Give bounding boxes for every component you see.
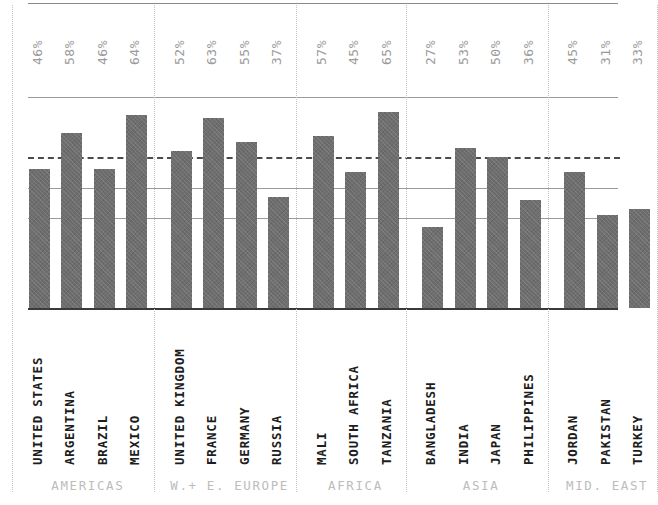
category-label: JAPAN bbox=[488, 315, 503, 465]
category-label: RUSSIA bbox=[269, 315, 284, 465]
category-label: INDIA bbox=[456, 315, 471, 465]
bar bbox=[61, 133, 82, 308]
value-label: 37% bbox=[269, 5, 284, 65]
category-label-band: UNITED STATESARGENTINABRAZILMEXICOUNITED… bbox=[0, 315, 628, 465]
bar bbox=[268, 197, 289, 308]
value-label: 33% bbox=[630, 5, 645, 65]
group-label-band: AMERICASW.+ E. EUROPEAFRICAASIAMID. EAST bbox=[0, 478, 628, 502]
category-label: TANZANIA bbox=[379, 315, 394, 465]
group-label: AFRICA bbox=[328, 478, 383, 493]
bar bbox=[564, 172, 585, 308]
category-label: PHILIPPINES bbox=[521, 315, 536, 465]
group-label: W.+ E. EUROPE bbox=[170, 478, 289, 493]
value-label: 36% bbox=[521, 5, 536, 65]
value-label: 64% bbox=[127, 5, 142, 65]
bar bbox=[597, 215, 618, 308]
value-label: 53% bbox=[456, 5, 471, 65]
category-label: UNITED STATES bbox=[30, 315, 45, 465]
bar bbox=[29, 169, 50, 308]
value-label-band: 46%58%46%64%52%63%55%37%57%45%65%27%53%5… bbox=[0, 5, 628, 67]
category-label: ARGENTINA bbox=[62, 315, 77, 465]
group-label: AMERICAS bbox=[51, 478, 124, 493]
bar bbox=[422, 227, 443, 308]
value-label: 45% bbox=[565, 5, 580, 65]
bar bbox=[455, 148, 476, 308]
bar bbox=[126, 115, 147, 308]
bar bbox=[313, 136, 334, 308]
value-label: 65% bbox=[379, 5, 394, 65]
bar bbox=[236, 142, 257, 308]
value-label: 46% bbox=[95, 5, 110, 65]
bar bbox=[171, 151, 192, 308]
value-label: 63% bbox=[204, 5, 219, 65]
value-label: 27% bbox=[423, 5, 438, 65]
value-label: 57% bbox=[314, 5, 329, 65]
chart-top-rule bbox=[28, 3, 618, 4]
category-label: SOUTH AFRICA bbox=[346, 315, 361, 465]
value-label: 52% bbox=[172, 5, 187, 65]
category-label: TURKEY bbox=[630, 315, 645, 465]
bar bbox=[378, 112, 399, 308]
value-label: 55% bbox=[237, 5, 252, 65]
bar bbox=[94, 169, 115, 308]
value-label: 45% bbox=[346, 5, 361, 65]
value-label: 58% bbox=[62, 5, 77, 65]
category-label: BRAZIL bbox=[95, 315, 110, 465]
value-label: 50% bbox=[488, 5, 503, 65]
bar bbox=[203, 118, 224, 308]
group-label: ASIA bbox=[463, 478, 500, 493]
bar bbox=[520, 200, 541, 308]
bar bbox=[629, 209, 650, 308]
value-label: 46% bbox=[30, 5, 45, 65]
plot-area bbox=[0, 67, 628, 310]
group-label: MID. EAST bbox=[566, 478, 648, 493]
category-label: MALI bbox=[314, 315, 329, 465]
bar bbox=[345, 172, 366, 308]
category-label: MEXICO bbox=[127, 315, 142, 465]
bar bbox=[487, 157, 508, 308]
category-label: JORDAN bbox=[565, 315, 580, 465]
category-label: UNITED KINGDOM bbox=[172, 315, 187, 465]
gridline-70 bbox=[28, 97, 618, 98]
category-label: BANGLADESH bbox=[423, 315, 438, 465]
category-label: PAKISTAN bbox=[598, 315, 613, 465]
axis-baseline bbox=[28, 308, 618, 310]
value-label: 31% bbox=[598, 5, 613, 65]
category-label: FRANCE bbox=[204, 315, 219, 465]
category-label: GERMANY bbox=[237, 315, 252, 465]
